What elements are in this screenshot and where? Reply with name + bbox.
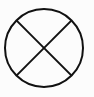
circle-x-icon: [0, 0, 94, 97]
diagram-canvas: [0, 0, 94, 97]
